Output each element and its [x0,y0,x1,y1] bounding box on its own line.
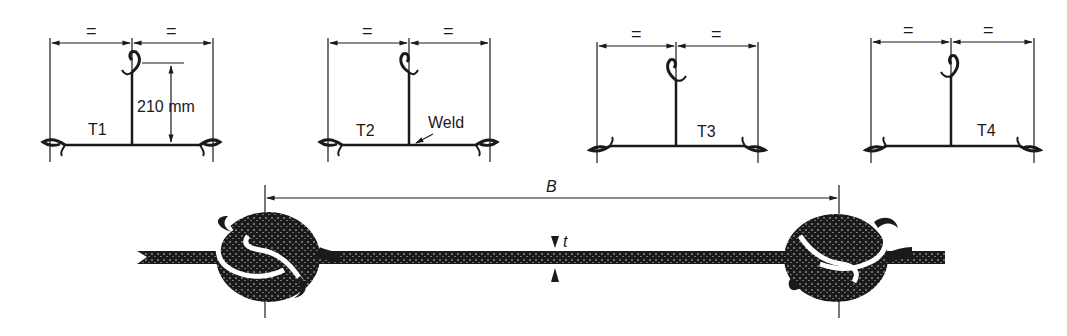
equal-mark-left: = [86,21,97,41]
equal-mark-left: = [631,24,642,44]
specimen-label: T4 [977,122,996,139]
width-label: B [546,178,557,195]
cross-section: B t [137,178,945,318]
specimen-label: T2 [356,122,375,139]
thickness-label: t [563,233,568,250]
equal-mark-right: = [711,24,722,44]
t-profile [590,60,765,151]
equal-mark-right: = [166,21,177,41]
equal-mark-left: = [903,20,914,40]
specimen-t3: = = T3 [590,24,765,163]
diagram-canvas: = = T1 210 mm = = [0,0,1067,336]
specimen-t2: = = T2 Weld [320,21,497,162]
t-profile [866,56,1040,151]
dimension-label: 210 mm [137,98,195,115]
specimen-t1: = = T1 210 mm [43,21,220,162]
thickness-arrow-bottom [551,268,559,282]
thickness-arrow-top [551,236,559,248]
equal-mark-right: = [443,21,454,41]
weld-annotation: Weld [428,114,464,131]
specimen-t4: = = T4 [866,20,1040,163]
specimen-label: T1 [88,121,107,138]
equal-mark-right: = [983,20,994,40]
specimen-label: T3 [697,123,716,140]
equal-mark-left: = [362,21,373,41]
seam-right [784,214,912,302]
seam-left [216,212,340,302]
